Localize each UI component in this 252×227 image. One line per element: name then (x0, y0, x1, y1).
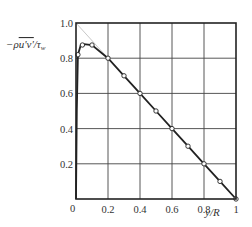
data-point-marker (202, 162, 206, 166)
y-tick-labels: 0.20.40.60.81.0 (60, 18, 74, 170)
x-axis-label: y/R (204, 206, 220, 218)
y-axis-label-sub: w (41, 44, 46, 52)
y-axis-label-main: −ρ (6, 38, 19, 50)
y-tick-label: 0.4 (60, 124, 74, 135)
y-axis-label-overline: u'v' (19, 38, 35, 50)
data-point-marker (106, 56, 110, 60)
y-tick-label: 0.8 (60, 53, 73, 64)
data-curve (76, 44, 236, 199)
y-tick-label: 0.2 (60, 159, 73, 170)
chart: 0.20.40.60.81 0.20.40.60.81.0 0 −ρu'v'/τ… (0, 0, 252, 227)
x-tick-label: 0.2 (101, 204, 114, 215)
x-tick-label: 0.6 (165, 204, 178, 215)
data-point-marker (170, 126, 174, 130)
y-tick-label: 0.6 (60, 88, 73, 99)
data-point-marker (186, 144, 190, 148)
data-point-marker (154, 109, 158, 113)
origin-label: 0 (70, 203, 75, 214)
data-markers (76, 43, 238, 201)
x-tick-label: 1 (233, 204, 238, 215)
data-point-marker (80, 43, 84, 47)
data-point-marker (138, 91, 142, 95)
y-axis-label: −ρu'v'/τw (6, 38, 46, 52)
data-point-marker (90, 43, 94, 47)
x-tick-label: 0.4 (133, 204, 147, 215)
data-point-marker (218, 179, 222, 183)
y-tick-label: 1.0 (60, 18, 73, 29)
data-point-marker (122, 74, 126, 78)
